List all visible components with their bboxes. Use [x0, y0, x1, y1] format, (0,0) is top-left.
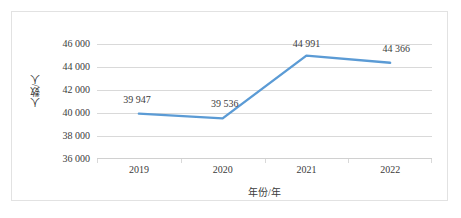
data-point-label: 44 991: [293, 38, 321, 49]
y-axis-tick-labels: 46 00044 00042 00040 00038 00036 000: [28, 44, 90, 159]
x-axis-tick-label: 2019: [129, 164, 149, 176]
category-tick: [265, 159, 266, 163]
y-axis-tick-label: 40 000: [30, 108, 90, 118]
data-point-label: 39 536: [211, 98, 239, 109]
y-axis-tick-label: 42 000: [30, 85, 90, 95]
data-point-label: 44 366: [382, 43, 410, 54]
y-axis-tick-label: 38 000: [30, 131, 90, 141]
category-tick: [97, 159, 98, 163]
y-axis-tick-label: 46 000: [30, 39, 90, 49]
data-point-label: 39 947: [123, 94, 151, 105]
category-tick: [431, 159, 432, 163]
x-axis-tick-label: 2020: [213, 164, 233, 176]
category-tick: [348, 159, 349, 163]
x-axis-title: 年份/年: [97, 184, 432, 199]
chart-container: 人数/人 46 00044 00042 00040 00038 00036 00…: [11, 11, 448, 201]
series-line: [139, 56, 390, 119]
y-axis-tick-label: 44 000: [30, 62, 90, 72]
category-tick: [181, 159, 182, 163]
x-axis-tick-label: 2021: [296, 164, 316, 176]
x-axis-tick-labels: 2019202020212022: [97, 164, 432, 178]
x-axis-tick-label: 2022: [380, 164, 400, 176]
y-axis-tick-label: 36 000: [30, 154, 90, 164]
